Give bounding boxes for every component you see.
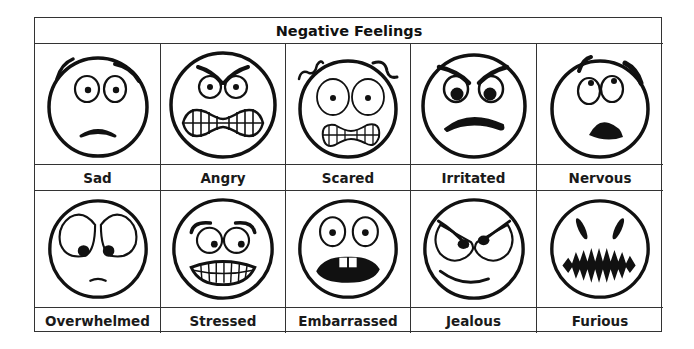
irritated-face-icon: [419, 49, 529, 159]
feelings-chart: Negative Feelings: [34, 17, 662, 332]
label-furious: Furious: [537, 307, 663, 333]
overwhelmed-face-icon: [45, 196, 151, 302]
label-angry: Angry: [161, 164, 286, 191]
label-nervous: Nervous: [537, 164, 663, 191]
jealous-face-icon: [421, 196, 527, 302]
label-irritated: Irritated: [411, 164, 537, 191]
face-cell-stressed: [161, 191, 286, 307]
face-cell-scared: [286, 44, 411, 164]
furious-face-icon: [547, 196, 653, 302]
face-cell-sad: [35, 44, 161, 164]
label-stressed: Stressed: [161, 307, 286, 333]
angry-face-icon: [168, 49, 278, 159]
face-cell-jealous: [411, 191, 537, 307]
face-cell-embarrassed: [286, 191, 411, 307]
sad-face-icon: [43, 49, 153, 159]
embarrassed-face-icon: [295, 196, 401, 302]
stressed-face-icon: [170, 196, 276, 302]
face-cell-nervous: [537, 44, 663, 164]
scared-face-icon: [293, 49, 403, 159]
face-cell-angry: [161, 44, 286, 164]
face-cell-furious: [537, 191, 663, 307]
label-scared: Scared: [286, 164, 411, 191]
label-overwhelmed: Overwhelmed: [35, 307, 161, 333]
face-cell-overwhelmed: [35, 191, 161, 307]
label-embarrassed: Embarrassed: [286, 307, 411, 333]
nervous-face-icon: [545, 49, 655, 159]
face-cell-irritated: [411, 44, 537, 164]
label-sad: Sad: [35, 164, 161, 191]
label-jealous: Jealous: [411, 307, 537, 333]
chart-title: Negative Feelings: [35, 18, 663, 44]
